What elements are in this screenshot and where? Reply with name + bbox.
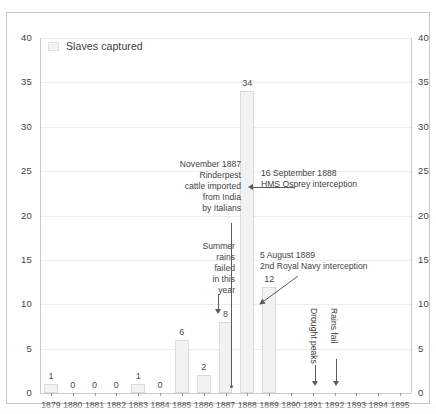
footer-sliver — [0, 406, 436, 414]
connector-royal-navy — [7, 13, 431, 405]
arrow-rains-fail-icon — [333, 381, 339, 386]
connector-rains-fail — [336, 359, 337, 383]
chart-frame: Slaves captured 1000106283412 4035302520… — [6, 12, 430, 404]
arrow-drought-peaks-icon — [312, 381, 318, 386]
